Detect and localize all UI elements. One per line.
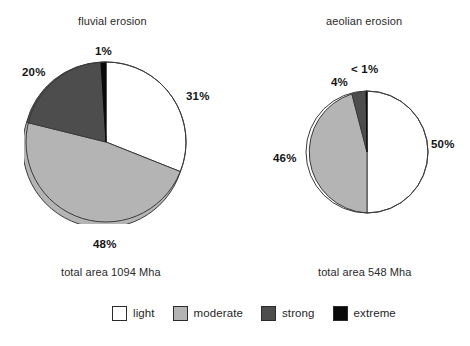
- legend-label-light: light: [133, 307, 155, 319]
- pie-label-fluvial-strong: 20%: [22, 66, 46, 78]
- total-area-fluvial: total area 1094 Mha: [61, 266, 161, 278]
- pie-label-aeolian-light: 50%: [431, 138, 455, 150]
- erosion-pie-chart-figure: fluvial erosion 1% 20% 31% 48% total are…: [0, 0, 470, 346]
- legend-item-extreme: extreme: [333, 306, 396, 321]
- legend-item-moderate: moderate: [173, 306, 243, 321]
- pie-label-aeolian-moderate: 46%: [273, 152, 297, 164]
- legend-swatch-light: [112, 306, 127, 321]
- legend-swatch-strong: [261, 306, 276, 321]
- pie-chart-aeolian: [304, 89, 430, 215]
- legend-item-light: light: [112, 306, 155, 321]
- legend-swatch-moderate: [173, 306, 188, 321]
- chart-title-fluvial: fluvial erosion: [78, 15, 147, 27]
- pie-chart-fluvial: [24, 60, 188, 224]
- pie-label-aeolian-extreme: < 1%: [351, 63, 378, 75]
- legend-item-strong: strong: [261, 306, 315, 321]
- chart-legend: lightmoderatestrongextreme: [112, 303, 414, 323]
- pie-label-fluvial-light: 31%: [186, 90, 210, 102]
- legend-label-moderate: moderate: [194, 307, 243, 319]
- legend-swatch-extreme: [333, 306, 348, 321]
- pie-label-aeolian-strong: 4%: [331, 76, 348, 88]
- pie-slice-aeolian-light: [367, 91, 428, 213]
- pie-label-fluvial-moderate: 48%: [93, 238, 117, 250]
- chart-title-aeolian: aeolian erosion: [326, 15, 402, 27]
- legend-label-extreme: extreme: [354, 307, 396, 319]
- total-area-aeolian: total area 548 Mha: [318, 266, 412, 278]
- legend-label-strong: strong: [282, 307, 315, 319]
- pie-label-fluvial-extreme: 1%: [95, 45, 112, 57]
